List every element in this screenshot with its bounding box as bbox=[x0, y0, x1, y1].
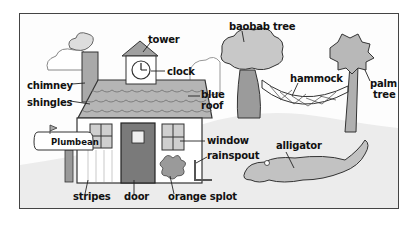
label-blue-roof-2: roof bbox=[201, 101, 223, 111]
label-hammock: hammock bbox=[290, 74, 343, 84]
label-alligator: alligator bbox=[276, 141, 322, 151]
smoke bbox=[69, 33, 93, 51]
label-shingles: shingles bbox=[27, 98, 72, 108]
label-rainspout: rainspout bbox=[207, 151, 259, 161]
roof bbox=[78, 80, 212, 118]
label-tower: tower bbox=[148, 35, 180, 45]
label-blue-roof-1: blue bbox=[201, 90, 225, 100]
label-door: door bbox=[124, 192, 149, 202]
label-chimney: chimney bbox=[27, 81, 73, 91]
label-palm-tree-1: palm bbox=[370, 79, 397, 89]
palm-fronds bbox=[330, 34, 374, 74]
palm-trunk bbox=[345, 65, 358, 132]
hammock-net bbox=[270, 86, 336, 106]
label-window: window bbox=[207, 136, 249, 146]
window-right bbox=[162, 124, 184, 150]
label-stripes: stripes bbox=[73, 192, 111, 202]
mailbox-name: Plumbean bbox=[51, 137, 99, 147]
label-clock: clock bbox=[167, 67, 195, 77]
label-orange-splot: orange splot bbox=[168, 192, 237, 202]
mailbox-post bbox=[65, 150, 73, 182]
label-palm-tree-2: tree bbox=[373, 90, 395, 100]
baobab-trunk bbox=[237, 70, 260, 118]
label-baobab-tree: baobab tree bbox=[229, 22, 295, 32]
baobab-crown bbox=[221, 28, 283, 70]
